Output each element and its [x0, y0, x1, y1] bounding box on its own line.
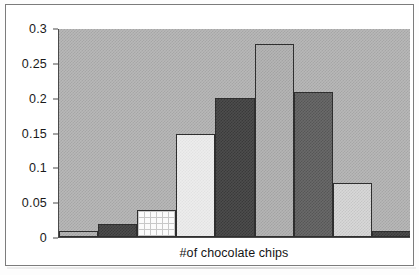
bar-1: [59, 231, 98, 237]
y-tick-label: 0.3: [29, 22, 47, 36]
y-tick-label: 0.1: [29, 161, 47, 175]
bar-3: [137, 210, 176, 237]
bar-9: [372, 231, 410, 237]
bar-8: [333, 183, 372, 237]
bar-7: [294, 92, 333, 237]
frame-shadow: [7, 267, 416, 269]
bar-6: [255, 44, 294, 237]
bar-2: [98, 224, 137, 237]
plot-area: [58, 29, 410, 238]
y-tick-label: 0.15: [22, 127, 47, 141]
y-tick-label: 0: [40, 231, 47, 245]
bar-4: [176, 134, 215, 237]
bar-5: [215, 98, 254, 237]
y-tick-label: 0.2: [29, 92, 47, 106]
x-axis-title: #of chocolate chips: [58, 246, 410, 260]
chart-outer-frame: 00.050.10.150.20.250.3 #of chocolate chi…: [5, 4, 414, 266]
y-tick-label: 0.25: [22, 57, 47, 71]
chart-figure: 00.050.10.150.20.250.3 #of chocolate chi…: [0, 0, 419, 275]
y-tick-label: 0.05: [22, 196, 47, 210]
y-axis: 00.050.10.150.20.250.3: [6, 5, 58, 245]
